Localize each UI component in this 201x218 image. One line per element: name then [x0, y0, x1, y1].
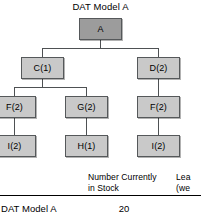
inventory-table: Number Currently in Stock Lea (we DAT Mo…: [0, 168, 201, 218]
node-a[interactable]: A: [79, 18, 122, 40]
node-d2[interactable]: D(2): [137, 57, 180, 79]
node-a-label: A: [97, 25, 103, 34]
node-i2-left-label: I(2): [8, 142, 22, 151]
column-header-stock-line2: in Stock: [88, 183, 157, 194]
node-f2-right[interactable]: F(2): [137, 96, 180, 118]
edge-c1-bus: [14, 87, 86, 88]
column-header-leadtime-line2: (we: [176, 183, 191, 194]
node-f2-left-label: F(2): [6, 103, 23, 112]
edge-f2l-i2l: [14, 118, 15, 135]
node-g2-label: G(2): [77, 103, 95, 112]
node-h1-label: H(1): [78, 142, 96, 151]
tree-title: DAT Model A: [0, 1, 201, 12]
column-header-stock-line1: Number Currently: [88, 172, 157, 182]
node-c1[interactable]: C(1): [21, 57, 64, 79]
table-header-rule: [0, 195, 201, 196]
edge-a-c1-drop: [42, 48, 43, 57]
node-h1[interactable]: H(1): [65, 135, 108, 157]
table-row-label: DAT Model A: [1, 203, 57, 214]
node-c1-label: C(1): [34, 64, 52, 73]
node-i2-left[interactable]: I(2): [0, 135, 36, 157]
node-f2-right-label: F(2): [150, 103, 167, 112]
node-d2-label: D(2): [150, 64, 168, 73]
node-g2[interactable]: G(2): [65, 96, 108, 118]
node-i2-right[interactable]: I(2): [137, 135, 180, 157]
column-header-leadtime: Lea (we: [176, 172, 191, 193]
edge-a-d2-drop: [158, 48, 159, 57]
edge-c1-f2-drop: [14, 87, 15, 96]
edge-a-bus: [42, 48, 158, 49]
diagram-page: DAT Model A A C(1) D(2) F(2): [0, 0, 201, 218]
edge-c1-stem: [42, 79, 43, 87]
column-header-leadtime-line1: Lea: [176, 172, 191, 182]
table-row-stock-value: 20: [88, 203, 160, 214]
column-header-stock: Number Currently in Stock: [88, 172, 157, 193]
node-f2-left[interactable]: F(2): [0, 96, 36, 118]
edge-f2r-i2r: [158, 118, 159, 135]
edge-a-stem: [100, 40, 101, 48]
edge-g2-h1: [86, 118, 87, 135]
node-i2-right-label: I(2): [152, 142, 166, 151]
edge-d2-f2r: [158, 79, 159, 96]
product-structure-tree: DAT Model A A C(1) D(2) F(2): [0, 0, 201, 168]
edge-c1-g2-drop: [86, 87, 87, 96]
